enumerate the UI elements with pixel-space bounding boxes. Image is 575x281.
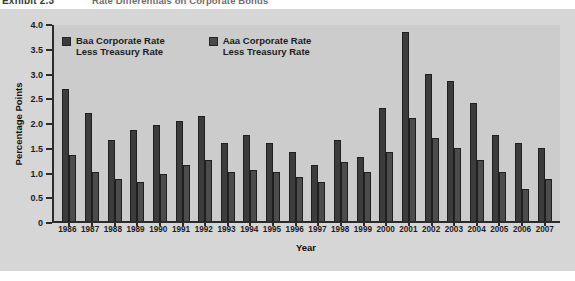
x-tick-label: 1987 [79,225,102,241]
bar-group [511,25,534,221]
bar-baa [379,108,386,221]
bar-group [533,25,556,221]
legend-label-aaa-line2: Less Treasury Rate [223,46,310,57]
bar-group [488,25,511,221]
bar-aaa [409,118,416,221]
bar-aaa [115,179,122,221]
legend-label-baa-line1: Baa Corporate Rate [76,35,165,46]
x-tick-label: 1995 [261,225,284,241]
x-tick-label: 1999 [352,225,375,241]
legend-label-baa: Baa Corporate Rate Less Treasury Rate [76,36,165,57]
y-axis: Percentage Points 00.51.01.52.02.53.03.5… [0,25,52,223]
bar-baa [492,135,499,221]
legend-label-aaa-line1: Aaa Corporate Rate [223,35,312,46]
x-tick-label: 2000 [374,225,397,241]
exhibit-header: Exhibit 2.3 Rate Differentials on Corpor… [0,0,575,9]
bar-group [330,25,353,221]
legend-swatch-baa-icon [62,37,71,46]
bar-aaa [69,155,76,221]
bar-group [375,25,398,221]
bar-baa [447,81,454,221]
bar-group [466,25,489,221]
bar-baa [538,148,545,222]
y-tick-label: 1.5 [30,144,43,154]
bar-aaa [432,138,439,221]
x-axis-title: Year [52,242,560,253]
bar-aaa [386,152,393,221]
bar-baa [470,103,477,221]
x-tick-label: 1990 [147,225,170,241]
legend-swatch-aaa-icon [209,37,218,46]
y-tick-label: 0 [38,218,43,228]
y-axis-title: Percentage Points [13,59,24,189]
bar-baa [153,125,160,221]
x-tick-label: 1992 [192,225,215,241]
bar-aaa [137,182,144,221]
x-tick-label: 1988 [101,225,124,241]
x-tick-label: 1997 [306,225,329,241]
bar-aaa [205,160,212,221]
y-tick-label: 4.0 [30,20,43,30]
bar-aaa [499,172,506,221]
y-tick-label: 0.5 [30,193,43,203]
bar-aaa [183,165,190,221]
chart-legend: Baa Corporate Rate Less Treasury Rate Aa… [62,36,311,57]
x-tick-label: 2001 [397,225,420,241]
bar-group [398,25,421,221]
bar-aaa [477,160,484,221]
bar-baa [515,143,522,221]
y-tick-label: 2.5 [30,94,43,104]
bar-aaa [273,172,280,221]
bar-aaa [341,162,348,221]
y-tick-label: 2.0 [30,119,43,129]
x-tick-label: 1993 [215,225,238,241]
bar-baa [176,121,183,221]
x-tick-label: 2004 [465,225,488,241]
x-tick-label: 2006 [511,225,534,241]
y-tick-label: 3.5 [30,45,43,55]
bar-baa [334,140,341,221]
bar-baa [289,152,296,221]
bar-aaa [454,148,461,222]
x-tick-label: 1986 [56,225,79,241]
figure-panel: Percentage Points 00.51.01.52.02.53.03.5… [0,9,575,271]
bar-group [352,25,375,221]
bar-baa [130,130,137,221]
y-tick-label: 1.0 [30,169,43,179]
bar-aaa [522,189,529,221]
legend-label-aaa: Aaa Corporate Rate Less Treasury Rate [223,36,312,57]
bar-aaa [318,182,325,221]
bar-baa [243,135,250,221]
bar-group [443,25,466,221]
x-tick-label: 1989 [124,225,147,241]
x-tick-label: 1996 [283,225,306,241]
x-tick-label: 2007 [533,225,556,241]
bar-aaa [364,172,371,221]
exhibit-title: Rate Differentials on Corporate Bonds [92,0,268,6]
x-tick-label: 2003 [442,225,465,241]
bar-baa [311,165,318,221]
x-tick-label: 2005 [488,225,511,241]
legend-label-baa-line2: Less Treasury Rate [76,46,163,57]
exhibit-number: Exhibit 2.3 [2,0,54,6]
chart-screenshot: Exhibit 2.3 Rate Differentials on Corpor… [0,0,575,281]
bar-baa [266,143,273,221]
bar-baa [425,74,432,221]
bar-baa [402,32,409,221]
bar-aaa [250,170,257,221]
bar-baa [198,116,205,221]
x-tick-label: 1994 [238,225,261,241]
legend-item-aaa: Aaa Corporate Rate Less Treasury Rate [209,36,312,57]
y-tick-label: 3.0 [30,70,43,80]
bar-group [420,25,443,221]
x-tick-label: 1998 [329,225,352,241]
x-tick-label: 2002 [420,225,443,241]
bar-aaa [160,174,167,221]
bar-baa [85,113,92,221]
bar-aaa [545,179,552,221]
bar-aaa [228,172,235,221]
bar-aaa [296,177,303,221]
bar-aaa [92,172,99,221]
x-tick-label: 1991 [170,225,193,241]
bar-baa [221,143,228,221]
